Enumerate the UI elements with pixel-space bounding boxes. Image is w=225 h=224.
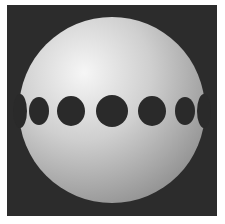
hole-3	[96, 95, 128, 127]
hole-1	[29, 97, 49, 125]
hole-2	[57, 96, 85, 126]
hole-5	[175, 97, 195, 125]
sphere-illustration	[0, 0, 225, 224]
hole-6	[197, 94, 211, 128]
hole-band	[13, 94, 211, 128]
hole-0	[13, 94, 27, 128]
hole-4	[138, 96, 166, 126]
